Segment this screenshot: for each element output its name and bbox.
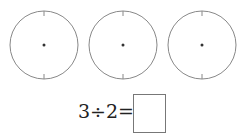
circle-1	[10, 11, 78, 79]
circle-3	[168, 11, 236, 79]
center-dot-icon	[43, 44, 46, 47]
center-dot-icon	[122, 44, 125, 47]
circle-2	[89, 11, 157, 79]
center-dot-icon	[201, 44, 204, 47]
answer-box[interactable]	[133, 94, 166, 133]
equation-text: 3÷2=	[78, 100, 134, 126]
